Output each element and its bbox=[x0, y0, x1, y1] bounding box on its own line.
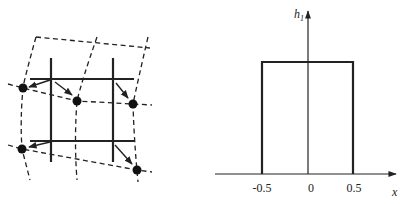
tick-label-zero: 0 bbox=[308, 181, 314, 195]
x-axis-label: x bbox=[391, 185, 398, 199]
dashed-row-2 bbox=[8, 145, 152, 172]
node-dot bbox=[73, 97, 82, 106]
node-dot bbox=[18, 145, 27, 154]
dashed-middle-curve bbox=[76, 37, 98, 180]
dashed-left-curve bbox=[21, 37, 36, 180]
solid-reference-grid bbox=[30, 58, 134, 162]
dashed-deformed-grid bbox=[8, 37, 152, 182]
y-axis-label: h1 bbox=[294, 7, 304, 23]
deformed-grid-figure bbox=[8, 37, 152, 182]
tick-label-pos-half: 0.5 bbox=[347, 181, 362, 195]
grid-nodes bbox=[18, 84, 142, 175]
dashed-right-curve bbox=[133, 37, 148, 182]
node-dot bbox=[133, 166, 142, 175]
dashed-top-line bbox=[36, 37, 150, 48]
arrow-icon bbox=[115, 145, 132, 164]
arrow-icon bbox=[116, 83, 128, 98]
node-dot bbox=[129, 100, 138, 109]
node-dot bbox=[19, 84, 28, 93]
arrow-icon bbox=[29, 80, 50, 87]
tick-label-neg-half: -0.5 bbox=[253, 181, 272, 195]
arrow-icon bbox=[29, 142, 50, 147]
box-function-plot: h1 x -0.5 0 0.5 bbox=[215, 7, 398, 199]
figure-canvas: h1 x -0.5 0 0.5 bbox=[0, 0, 408, 204]
arrow-icon bbox=[55, 82, 72, 95]
